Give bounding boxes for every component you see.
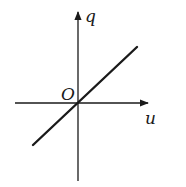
proportional-line [33,47,137,145]
origin-label: O [61,84,75,104]
q-u-graph: q u O [0,0,186,187]
q-axis-label: q [85,6,96,26]
u-axis-label: u [145,108,156,128]
